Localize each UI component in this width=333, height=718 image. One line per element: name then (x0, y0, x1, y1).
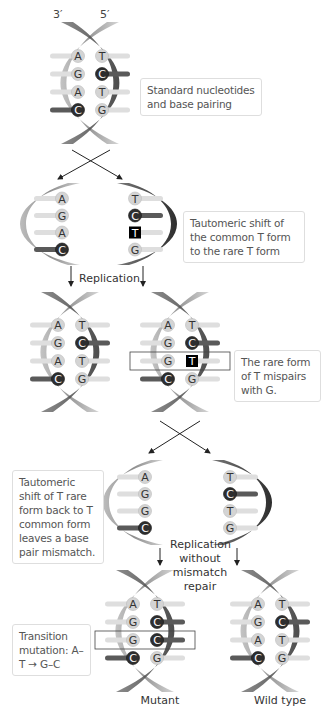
base-letter: T (98, 50, 106, 63)
base-letter: A (129, 598, 137, 611)
helix-wild-type: ATGCATCG (230, 570, 310, 692)
backbone-strand (212, 460, 272, 545)
base-letter: G (164, 337, 173, 350)
base-letter: A (54, 355, 62, 368)
base-letter: C (54, 373, 62, 386)
base-letter: C (78, 337, 86, 350)
base-letter: G (74, 68, 83, 81)
note-shift-back: Tautomeric shift of T rare form back to … (12, 470, 104, 564)
note-rare-mispair: The rare form of T mispairs with G. (234, 350, 321, 402)
base-letter: T (131, 227, 139, 240)
base-letter: A (74, 50, 82, 63)
base-letter: G (164, 355, 173, 368)
label-mutant: Mutant (130, 694, 190, 707)
base-letter: T (188, 355, 196, 368)
label-wild-type: Wild type (245, 694, 315, 707)
base-letter: C (278, 616, 286, 629)
helix-right-parent-strand: TCTG (117, 183, 177, 265)
base-letter: T (188, 319, 196, 332)
backbone-strand (20, 183, 80, 265)
cross-arrow-2 (58, 150, 110, 179)
cross-arrow-3 (160, 421, 210, 453)
backbone-strand-left (241, 570, 300, 692)
base-letter: C (129, 652, 137, 665)
backbone-strand-left (41, 292, 100, 412)
backbone-strand-right (61, 22, 120, 144)
base-letter: C (254, 652, 262, 665)
cross-arrow-4 (149, 421, 200, 453)
base-letter: C (164, 373, 172, 386)
base-letter: G (131, 244, 140, 257)
helix-original: ATGCATCG (50, 22, 130, 144)
base-letter: A (254, 634, 262, 647)
backbone-strand-right (41, 292, 100, 412)
base-letter: A (54, 319, 62, 332)
helix-mismatch-left-strand: AGGC (103, 460, 163, 545)
backbone-strand-right (241, 570, 300, 692)
base-letter: C (58, 244, 66, 257)
base-letter: C (226, 488, 234, 501)
base-letter: T (278, 598, 286, 611)
cross-arrow-1 (72, 150, 122, 179)
label-replication: Replication (79, 272, 137, 285)
base-letter: T (226, 471, 234, 484)
base-letter: G (78, 373, 87, 386)
base-letter: G (58, 210, 67, 223)
note-standard-pairing: Standard nucleotides and base pairing (140, 78, 262, 116)
base-letter: C (153, 616, 161, 629)
base-letter: A (164, 319, 172, 332)
base-letter: A (74, 86, 82, 99)
base-letter: A (58, 193, 66, 206)
base-letter: G (141, 505, 150, 518)
base-letter: T (78, 355, 86, 368)
base-letter: G (141, 488, 150, 501)
base-letter: G (54, 337, 63, 350)
base-letter: G (129, 616, 138, 629)
note-tautomeric-shift: Tautomeric shift of the common T form to… (183, 211, 305, 263)
helix-left-parent-strand: AGAC (20, 183, 80, 265)
base-letter: T (78, 319, 86, 332)
base-letter: C (131, 210, 139, 223)
base-letter: G (153, 652, 162, 665)
base-letter: T (98, 86, 106, 99)
base-letter: C (141, 522, 149, 535)
base-letter: G (98, 104, 107, 117)
note-transition-mutation: Transition mutation: A–T → G–C (12, 624, 91, 676)
base-letter: C (153, 634, 161, 647)
base-letter: T (153, 598, 161, 611)
strand-label-3prime: 3′ (53, 8, 63, 21)
helix-replicated-left: ATGCATCG (30, 292, 110, 412)
helix-replicated-right: ATGCGTCG (130, 292, 230, 412)
base-letter: C (98, 68, 106, 81)
base-letter: A (58, 227, 66, 240)
base-letter: A (141, 471, 149, 484)
base-letter: A (254, 598, 262, 611)
base-letter: G (188, 373, 197, 386)
strand-label-5prime: 5′ (100, 8, 110, 21)
backbone-strand-left (61, 22, 120, 144)
base-letter: G (278, 652, 287, 665)
base-letter: C (74, 104, 82, 117)
base-letter: G (226, 522, 235, 535)
backbone-strand (103, 460, 163, 545)
base-letter: T (131, 193, 139, 206)
base-letter: T (226, 505, 234, 518)
backbone-strand (117, 183, 177, 265)
base-letter: T (278, 634, 286, 647)
base-letter: C (188, 337, 196, 350)
base-letter: G (129, 634, 138, 647)
label-replication-without-repair: Replication without mismatch repair (170, 538, 230, 594)
base-letter: G (254, 616, 263, 629)
helix-mismatch-right-strand: TCTG (212, 460, 272, 545)
